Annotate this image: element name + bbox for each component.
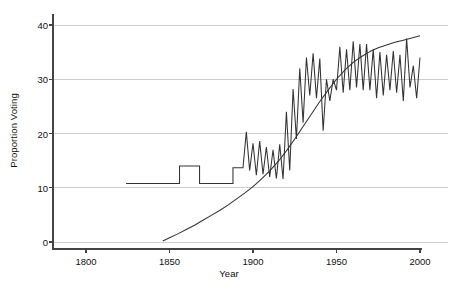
y-axis-label: Proportion Voting: [8, 71, 19, 191]
y-tick-label: 20: [20, 128, 48, 139]
y-axis-label-container: Proportion Voting: [0, 0, 16, 289]
x-tick-label: 2000: [409, 256, 430, 267]
data-series-layer: [126, 36, 420, 241]
gridlines: [53, 25, 448, 242]
x-tick-label: 1900: [242, 256, 263, 267]
x-tick-label: 1950: [326, 256, 347, 267]
chart-figure: Proportion Voting Year 010203040 1800185…: [0, 0, 458, 289]
series-turnout-line: [126, 39, 420, 184]
y-tick-label: 40: [20, 20, 48, 31]
x-axis-label: Year: [0, 268, 458, 279]
plot-area: [0, 0, 458, 289]
axis-tick-marks: [49, 25, 420, 253]
y-tick-label: 10: [20, 182, 48, 193]
x-tick-label: 1800: [75, 256, 96, 267]
y-tick-label: 0: [20, 237, 48, 248]
x-tick-label: 1850: [159, 256, 180, 267]
y-tick-label: 30: [20, 74, 48, 85]
